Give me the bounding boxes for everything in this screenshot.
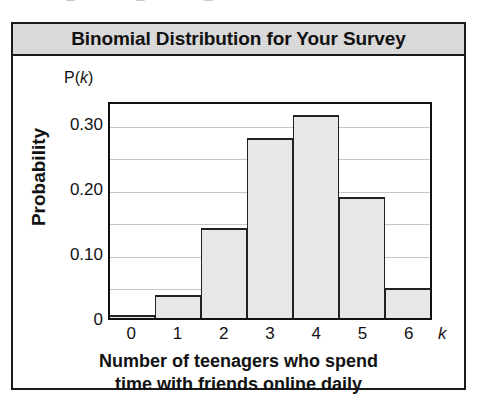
chart-body: Probability P(k) 0.300.200.100 k 0123456… bbox=[13, 56, 464, 390]
y-tick-label: 0.20 bbox=[17, 180, 103, 200]
bar bbox=[385, 288, 430, 318]
x-tick-label: 0 bbox=[111, 324, 151, 344]
bar bbox=[247, 138, 293, 318]
pk-suffix: ) bbox=[88, 69, 93, 86]
bar bbox=[293, 115, 339, 318]
pk-variable: k bbox=[80, 69, 88, 86]
x-tick-label: 5 bbox=[343, 324, 383, 344]
bar bbox=[201, 228, 247, 318]
y-tick-label: 0.30 bbox=[17, 115, 103, 135]
probability-axis-header: P(k) bbox=[64, 69, 93, 87]
x-tick-label: 4 bbox=[296, 324, 336, 344]
x-axis-caption: Number of teenagers who spend time with … bbox=[13, 350, 464, 395]
x-tick-label: 6 bbox=[389, 324, 429, 344]
pk-prefix: P( bbox=[64, 69, 80, 86]
chart-title: Binomial Distribution for Your Survey bbox=[71, 28, 405, 50]
bar bbox=[155, 295, 201, 318]
figure-panel: Binomial Distribution for Your Survey Pr… bbox=[11, 22, 466, 390]
scan-artifact bbox=[0, 0, 485, 18]
y-tick-label: 0 bbox=[17, 310, 103, 330]
plot-area bbox=[108, 102, 432, 320]
x-axis-tick-labels: k 0123456 bbox=[108, 324, 432, 350]
x-tick-label: 3 bbox=[250, 324, 290, 344]
x-axis-variable-label: k bbox=[438, 324, 447, 344]
y-axis-tick-labels: 0.300.200.100 bbox=[13, 102, 103, 320]
x-tick-label: 1 bbox=[157, 324, 197, 344]
bar bbox=[110, 315, 155, 318]
x-tick-label: 2 bbox=[204, 324, 244, 344]
chart-title-band: Binomial Distribution for Your Survey bbox=[13, 24, 464, 56]
y-tick-label: 0.10 bbox=[17, 245, 103, 265]
caption-line-2: time with friends online daily bbox=[13, 373, 464, 396]
caption-line-1: Number of teenagers who spend bbox=[13, 350, 464, 373]
bar-series bbox=[110, 104, 430, 318]
bar bbox=[339, 197, 385, 318]
